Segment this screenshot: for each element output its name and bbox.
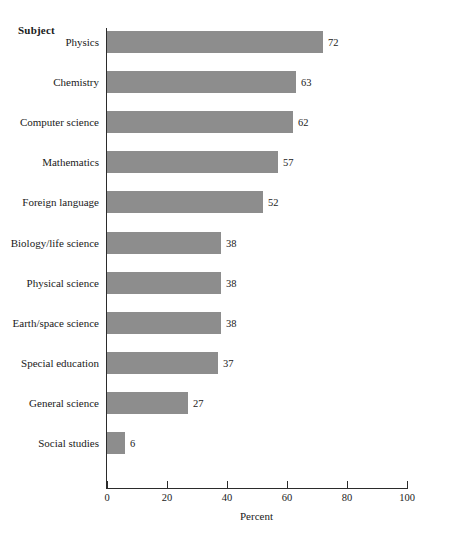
x-axis-tick-label: 80	[327, 492, 367, 503]
bar-value-label: 38	[226, 317, 237, 328]
bar-segment	[107, 191, 263, 213]
category-label: Foreign language	[0, 196, 99, 209]
bar-row: Mathematics57	[107, 151, 407, 173]
x-axis-tick-label: 60	[267, 492, 307, 503]
bar-chart: Subject Percent Physics72Chemistry63Comp…	[0, 0, 455, 538]
bar-segment	[107, 312, 221, 334]
bar-value-label: 63	[301, 77, 312, 88]
bar-segment	[107, 232, 221, 254]
x-axis-tick-label: 100	[387, 492, 427, 503]
bar-segment	[107, 352, 218, 374]
bar-value-label: 62	[298, 117, 309, 128]
x-axis-tick	[407, 481, 408, 488]
bar-segment	[107, 432, 125, 454]
bar-value-label: 38	[226, 237, 237, 248]
bar-value-label: 6	[130, 438, 135, 449]
bar-row: Physics72	[107, 31, 407, 53]
category-label: Chemistry	[0, 76, 99, 89]
bar-row: Special education37	[107, 352, 407, 374]
x-axis-tick-label: 40	[207, 492, 247, 503]
bar-row: Biology/life science38	[107, 232, 407, 254]
bar-row: Chemistry63	[107, 71, 407, 93]
category-label: Physics	[0, 36, 99, 49]
value-axis-line	[106, 488, 408, 489]
category-label: Earth/space science	[0, 316, 99, 329]
category-label: Physical science	[0, 276, 99, 289]
bar-value-label: 27	[193, 397, 204, 408]
bar-segment	[107, 151, 278, 173]
x-axis-tick	[107, 481, 108, 488]
bar-row: Foreign language52	[107, 191, 407, 213]
category-axis-title: Subject	[18, 24, 55, 36]
category-label: Special education	[0, 356, 99, 369]
category-label: Computer science	[0, 116, 99, 129]
x-axis-tick-label: 0	[87, 492, 127, 503]
bar-segment	[107, 111, 293, 133]
x-axis-tick	[347, 481, 348, 488]
category-label: Biology/life science	[0, 236, 99, 249]
bar-row: General science27	[107, 392, 407, 414]
bar-segment	[107, 272, 221, 294]
bar-value-label: 38	[226, 277, 237, 288]
bar-row: Social studies6	[107, 432, 407, 454]
bar-row: Computer science62	[107, 111, 407, 133]
x-axis-tick	[227, 481, 228, 488]
category-label: General science	[0, 396, 99, 409]
category-label: Mathematics	[0, 156, 99, 169]
bar-row: Earth/space science38	[107, 312, 407, 334]
category-label: Social studies	[0, 437, 99, 450]
bar-value-label: 57	[283, 157, 294, 168]
value-axis-caption: Percent	[0, 510, 455, 522]
bar-segment	[107, 71, 296, 93]
bar-segment	[107, 392, 188, 414]
bar-value-label: 52	[268, 197, 279, 208]
x-axis-tick-label: 20	[147, 492, 187, 503]
bar-value-label: 37	[223, 357, 234, 368]
bar-value-label: 72	[328, 37, 339, 48]
plot-area	[107, 28, 407, 488]
x-axis-tick	[287, 481, 288, 488]
x-axis-tick	[167, 481, 168, 488]
bar-segment	[107, 31, 323, 53]
bar-row: Physical science38	[107, 272, 407, 294]
value-axis-caption-text: Percent	[240, 510, 273, 522]
